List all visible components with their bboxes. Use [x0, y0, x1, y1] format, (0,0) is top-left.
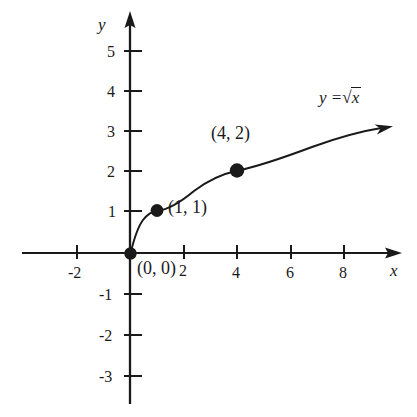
x-tick-label-2: 2 — [179, 263, 187, 279]
x-tick-label-8: 8 — [339, 265, 347, 281]
y-tick-label-5: 5 — [107, 44, 115, 60]
y-axis — [125, 11, 136, 404]
y-tick-label-neg3: -3 — [99, 369, 112, 385]
function-label: y =√x — [319, 89, 361, 106]
point-0-0 — [124, 247, 136, 259]
y-tick-label-3: 3 — [107, 124, 115, 140]
x-tick-label-4: 4 — [232, 265, 240, 281]
y-tick-label-neg1: -1 — [99, 287, 112, 303]
sqrt-curve — [131, 125, 394, 254]
x-tick-label-neg2: -2 — [68, 265, 81, 281]
coordinate-plot — [0, 0, 417, 417]
y-tick-label-1: 1 — [108, 204, 116, 220]
x-axis-label: x — [390, 262, 398, 279]
y-tick-label-neg2: -2 — [99, 328, 112, 344]
y-tick-label-2: 2 — [107, 164, 115, 180]
point-label-1-1: (1, 1) — [168, 198, 207, 216]
y-axis-ticks — [124, 51, 142, 376]
point-label-4-2: (4, 2) — [211, 124, 250, 142]
x-tick-label-6: 6 — [286, 265, 294, 281]
function-label-lhs: y = — [319, 88, 342, 107]
function-radicand: x — [351, 87, 362, 107]
point-1-1 — [151, 204, 164, 217]
point-label-origin: (0, 0) — [137, 259, 176, 277]
y-axis-label: y — [98, 16, 106, 33]
graph-figure: y x -2 2 4 6 8 5 4 3 2 1 -1 -2 -3 (0, 0)… — [0, 0, 417, 417]
y-tick-label-4: 4 — [107, 84, 115, 100]
point-4-2 — [230, 163, 244, 177]
